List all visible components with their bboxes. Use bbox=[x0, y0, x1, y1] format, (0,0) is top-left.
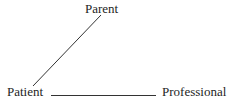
node-parent-label: Parent bbox=[85, 2, 118, 15]
node-professional-label: Professional bbox=[162, 85, 226, 98]
relationship-diagram: Parent Patient Professional bbox=[0, 0, 234, 104]
node-patient-label: Patient bbox=[7, 85, 43, 98]
edge-patient-parent bbox=[33, 15, 101, 86]
